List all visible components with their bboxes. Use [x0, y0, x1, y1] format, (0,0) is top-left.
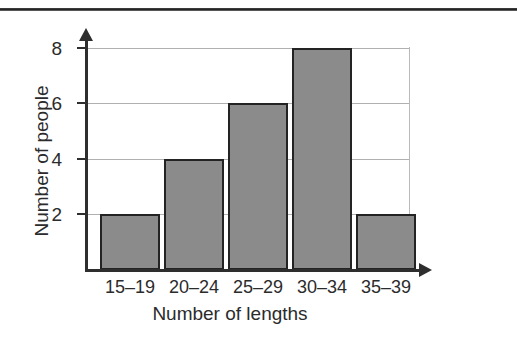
gridline-8	[87, 48, 410, 49]
bar-chart-figure: 8 6 4 2 15–19 20–24 25–29 30–34 35–39 Nu…	[0, 0, 517, 346]
x-tick-label-25-29: 25–29	[228, 277, 288, 297]
bar-15-19	[100, 214, 160, 270]
y-tick-label-8: 8	[22, 39, 62, 58]
plot-area: 8 6 4 2 15–19 20–24 25–29 30–34 35–39 Nu…	[0, 0, 517, 346]
y-axis-title: Number of people	[31, 61, 53, 261]
bar-25-29	[228, 103, 288, 270]
y-axis-line	[85, 36, 88, 272]
x-axis-title: Number of lengths	[0, 303, 460, 325]
x-tick-label-30-34: 30–34	[292, 277, 352, 297]
x-tick-label-20-24: 20–24	[164, 277, 224, 297]
x-tick-label-35-39: 35–39	[356, 277, 416, 297]
x-axis-line	[85, 269, 422, 272]
bar-30-34	[292, 48, 352, 270]
y-axis-arrow-icon	[79, 28, 93, 41]
bar-20-24	[164, 159, 224, 270]
x-axis-arrow-icon	[419, 263, 432, 277]
bar-35-39	[356, 214, 416, 270]
x-tick-label-15-19: 15–19	[100, 277, 160, 297]
